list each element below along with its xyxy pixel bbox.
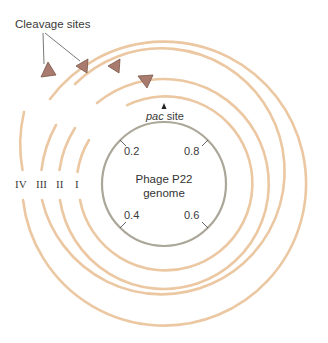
tick-label-0-2: 0.2 <box>124 146 139 157</box>
tick-label-0-6: 0.6 <box>184 210 199 221</box>
ring-IV-lower <box>20 112 24 170</box>
cleavage-sites-label: Cleavage sites <box>15 19 90 31</box>
callout-line-1 <box>43 33 44 64</box>
tick-0-4 <box>120 222 126 228</box>
ring-label-IV: IV <box>15 178 27 191</box>
ring-III-lower <box>42 125 57 170</box>
genome-label: Phage P22 genome <box>114 172 214 200</box>
pac-site-arrow-icon <box>162 103 167 109</box>
genome-label-line2: genome <box>114 186 214 200</box>
ring-I-lower <box>78 140 90 172</box>
cleavage-site-marker-IV <box>41 62 56 77</box>
tick-0-6 <box>202 222 208 228</box>
pac-label-rest: site <box>164 110 184 122</box>
genome-label-line1: Phage P22 <box>114 172 214 186</box>
ring-label-II: II <box>56 178 63 191</box>
pac-label-italic: pac <box>146 110 164 122</box>
tick-label-0-4: 0.4 <box>124 210 139 221</box>
tick-label-0-8: 0.8 <box>184 146 199 157</box>
ring-label-I: I <box>75 178 79 191</box>
tick-0-8 <box>202 140 208 146</box>
ring-label-III: III <box>36 178 47 191</box>
ring-II-lower <box>60 128 76 170</box>
callout-line-2 <box>45 33 80 61</box>
pac-site-label: pac site <box>146 111 184 122</box>
